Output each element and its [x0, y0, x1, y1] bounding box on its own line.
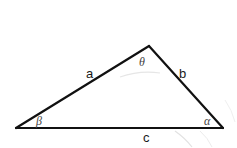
angle-alpha-label: α — [204, 114, 211, 128]
side-a-label: a — [86, 66, 94, 81]
background-artifact-arc — [120, 72, 160, 77]
side-c-label: c — [143, 130, 150, 145]
angle-beta-label: β — [35, 114, 42, 128]
side-b-label: b — [179, 66, 186, 81]
background-artifact-arc — [175, 131, 192, 147]
background-artifact-arc — [225, 100, 235, 122]
background-artifact-arc — [200, 131, 212, 147]
triangle-diagram: a b c θ β α — [0, 0, 237, 148]
side-b-edge — [149, 46, 223, 128]
angle-theta-label: θ — [139, 55, 145, 69]
